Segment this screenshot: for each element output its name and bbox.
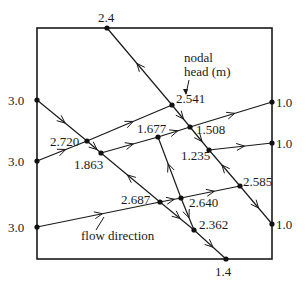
node-head-label: 1.235: [181, 148, 210, 163]
fracture-segment: [240, 186, 272, 224]
node-dot: [104, 25, 109, 30]
node-dot: [84, 138, 89, 143]
node-head-label: 1.0: [276, 217, 292, 232]
node-head-label: 2.687: [121, 192, 151, 207]
fracture-segment: [209, 143, 272, 150]
node-dot: [34, 224, 39, 229]
node-dot: [269, 221, 274, 226]
node-head-label: 1.4: [215, 264, 232, 279]
node-dot: [169, 102, 174, 107]
node-head-label: 2.541: [176, 91, 205, 106]
node-head-label: 2.720: [50, 134, 79, 149]
fracture-segment: [209, 150, 240, 186]
node-head-label: 1.677: [137, 121, 167, 136]
node-head-label: 1.0: [276, 95, 292, 110]
fracture-segment: [194, 230, 226, 259]
flow-direction-label: flow direction: [81, 228, 155, 243]
node-head-label: 2.4: [98, 10, 115, 25]
node-dot: [178, 195, 183, 200]
fracture-segment: [158, 137, 181, 198]
node-dot: [34, 97, 39, 102]
node-dot: [269, 140, 274, 145]
nodal-head-label-line1: nodal: [184, 50, 213, 65]
node-dot: [269, 99, 274, 104]
node-head-label: 1.508: [196, 122, 225, 137]
node-head-label: 2.640: [189, 195, 218, 210]
node-head-label: 3.0: [8, 93, 24, 108]
nodal-head-label-line2: head (m): [184, 64, 231, 79]
fracture-network-diagram: 2.43.03.03.02.7201.8631.6772.5411.5081.2…: [0, 0, 306, 286]
node-head-label: 1.0: [276, 136, 292, 151]
node-head-label: 2.585: [243, 174, 272, 189]
fracture-segment: [172, 105, 190, 127]
node-dot: [187, 124, 192, 129]
node-head-label: 3.0: [8, 220, 24, 235]
node-head-label: 1.863: [74, 157, 103, 172]
node-dot: [237, 183, 242, 188]
node-head-label: 3.0: [8, 154, 24, 169]
node-head-label: 2.362: [199, 217, 228, 232]
node-dot: [191, 227, 196, 232]
fracture-segment: [101, 137, 158, 153]
node-dot: [223, 256, 228, 261]
node-dot: [157, 199, 162, 204]
fracture-segment: [107, 28, 172, 105]
node-dot: [34, 158, 39, 163]
node-dot: [98, 150, 103, 155]
